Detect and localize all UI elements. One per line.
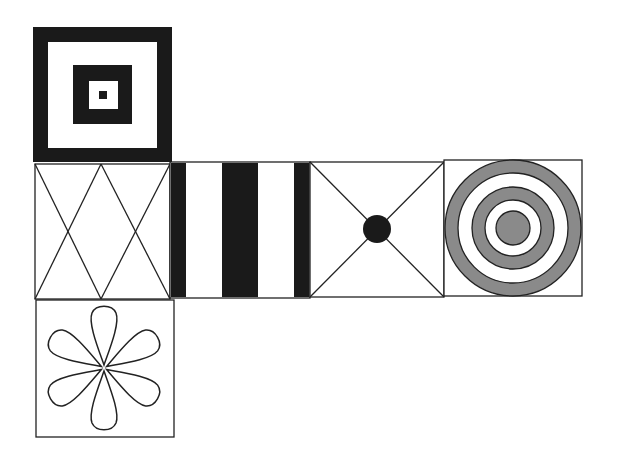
cube-net-diagram: [0, 0, 629, 465]
face-stripes: [170, 162, 310, 298]
face-nested-squares: [33, 27, 172, 162]
face-flower: [36, 300, 174, 437]
face-double-x: [35, 164, 170, 299]
face-target: [444, 160, 582, 296]
face-x-dot: [310, 162, 444, 297]
center-dot: [363, 215, 391, 243]
